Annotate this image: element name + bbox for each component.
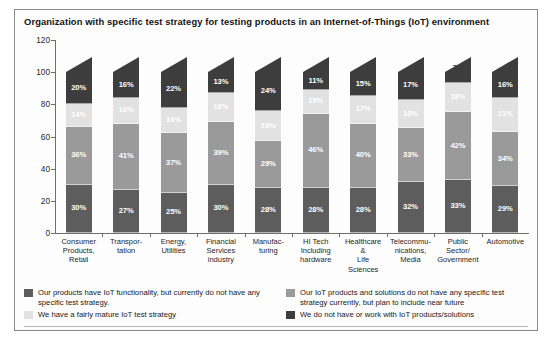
bar-segment[interactable]: 28% [303, 188, 329, 233]
bar-segment[interactable]: 17% [398, 72, 424, 99]
category-label-line: hardware [290, 255, 342, 264]
bar-segment[interactable]: 36% [66, 127, 92, 185]
bar-stack[interactable]: 15%17%40%28% [350, 72, 376, 233]
bar-segment[interactable]: 41% [113, 124, 139, 190]
y-tick-label: 40 [41, 164, 50, 174]
bar-segment[interactable]: 34% [492, 132, 518, 187]
category-label-line: Sciences [337, 265, 389, 274]
bar-segment[interactable]: 32% [398, 182, 424, 233]
bar-segment[interactable]: 18% [445, 83, 471, 112]
bar-segment[interactable]: 22% [161, 72, 187, 107]
bar-segment[interactable]: 33% [398, 128, 424, 181]
bar-top-bevel [208, 57, 234, 72]
bar-segment[interactable]: 46% [303, 114, 329, 188]
category-label-line: Retail [53, 255, 105, 264]
bar-segment[interactable]: 40% [350, 124, 376, 188]
bar-segment[interactable]: 20% [66, 72, 92, 104]
bar-segment[interactable]: 16% [492, 72, 518, 98]
segment-value-label: 13% [208, 78, 234, 86]
bar-stack[interactable]: 16%21%34%29% [492, 72, 518, 233]
category-label-line: turing [242, 246, 294, 255]
bar-segment[interactable]: 33% [445, 180, 471, 233]
legend-label: Our IoT products and solutions do not ha… [300, 288, 528, 307]
category-label-line: Manufac- [242, 237, 294, 246]
bar-stack[interactable]: 11%15%46%28% [303, 72, 329, 233]
category-label-line: Utilities [148, 246, 200, 255]
bar-top-bevel [398, 57, 424, 72]
y-tick-mark [51, 233, 55, 234]
bar-segment[interactable]: 7% [445, 72, 471, 83]
bar-top-bevel [445, 57, 471, 72]
bar-segment[interactable]: 16% [113, 72, 139, 98]
bar-segment[interactable]: 15% [350, 72, 376, 96]
bar-segment[interactable]: 29% [255, 141, 281, 188]
segment-value-label: 33% [445, 202, 471, 210]
segment-value-label: 30% [66, 205, 92, 213]
bar-stack[interactable]: 22%16%37%25% [161, 72, 187, 233]
category-label-line: industry [195, 255, 247, 264]
bar-top-bevel [161, 57, 187, 72]
segment-value-label: 39% [208, 149, 234, 157]
category-label-line: nications, [385, 246, 437, 255]
category-label-line: Healthcare [337, 237, 389, 246]
bar-segment[interactable]: 14% [66, 104, 92, 127]
bar-segment[interactable]: 18% [208, 93, 234, 122]
bar-segment[interactable]: 27% [113, 190, 139, 233]
bar-segment[interactable]: 30% [66, 185, 92, 233]
chart-legend: Our products have IoT functionality, but… [24, 288, 528, 324]
bar-stack[interactable]: 16%16%41%27% [113, 72, 139, 233]
bar-stack[interactable]: 24%19%29%28% [255, 72, 281, 233]
segment-value-label: 40% [350, 152, 376, 160]
bar-segment[interactable]: 28% [255, 188, 281, 233]
legend-item[interactable]: Our products have IoT functionality, but… [24, 288, 266, 307]
bar-segment[interactable]: 16% [161, 108, 187, 134]
legend-swatch [286, 311, 295, 319]
bar-segment[interactable]: 17% [350, 96, 376, 123]
bar-segment[interactable]: 28% [350, 188, 376, 233]
segment-value-label: 17% [398, 82, 424, 90]
category-label: PublicSector/Government [432, 237, 484, 265]
bar-segment[interactable]: 21% [492, 98, 518, 132]
bar-segment[interactable]: 16% [113, 98, 139, 124]
segment-value-label: 18% [445, 94, 471, 102]
segment-value-label: 15% [350, 80, 376, 88]
bar-stack[interactable]: 7%18%42%33% [445, 72, 471, 233]
bar-stack[interactable]: 17%18%33%32% [398, 72, 424, 233]
segment-value-label: 32% [398, 203, 424, 211]
category-label-line: Automotive [479, 237, 531, 246]
bar-segment[interactable]: 25% [161, 193, 187, 233]
segment-value-label: 16% [492, 81, 518, 89]
bar-segment[interactable]: 15% [303, 90, 329, 114]
bar-segment[interactable]: 11% [303, 72, 329, 90]
segment-value-label: 16% [113, 106, 139, 114]
category-label-line: Products, [53, 246, 105, 255]
category-label: Manufac-turing [242, 237, 294, 255]
bar-segment[interactable]: 39% [208, 122, 234, 185]
bar-segment[interactable]: 42% [445, 112, 471, 180]
legend-item[interactable]: We have a fairly mature IoT test strateg… [24, 310, 266, 320]
bar-segment[interactable]: 24% [255, 72, 281, 111]
chart-figure: Organization with specific test strategy… [14, 9, 538, 331]
bar-stack[interactable]: 13%18%39%30% [208, 72, 234, 233]
segment-value-label: 18% [208, 103, 234, 111]
bar-segment[interactable]: 13% [208, 72, 234, 93]
segment-value-label: 46% [303, 147, 329, 155]
legend-item[interactable]: Our IoT products and solutions do not ha… [286, 288, 528, 307]
segment-value-label: 22% [161, 86, 187, 94]
category-label-line: Services [195, 246, 247, 255]
category-label: Telecommu-nications,Media [385, 237, 437, 265]
segment-value-label: 28% [303, 206, 329, 214]
bar-stack[interactable]: 20%14%36%30% [66, 72, 92, 233]
bar-segment[interactable]: 37% [161, 133, 187, 193]
bar-segment[interactable]: 30% [208, 185, 234, 233]
category-label-line: Public [432, 237, 484, 246]
segment-value-label: 28% [255, 206, 281, 214]
bar-top-bevel [303, 57, 329, 72]
segment-value-label: 15% [303, 98, 329, 106]
bar-segment[interactable]: 29% [492, 186, 518, 233]
segment-value-label: 27% [113, 207, 139, 215]
y-tick-label: 0 [45, 228, 50, 238]
legend-item[interactable]: We do not have or work with IoT products… [286, 310, 528, 320]
bar-segment[interactable]: 18% [398, 100, 424, 129]
bar-segment[interactable]: 19% [255, 111, 281, 142]
